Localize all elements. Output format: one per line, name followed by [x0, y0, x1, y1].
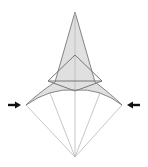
right-push-arrow-icon	[127, 102, 140, 109]
left-push-arrow-icon	[8, 102, 21, 109]
fold-line	[75, 105, 122, 157]
fold-line	[50, 93, 75, 157]
fold-line	[26, 105, 75, 157]
origami-diagram	[0, 0, 148, 167]
lower-fold-lines	[26, 93, 122, 157]
fold-line	[75, 93, 100, 157]
